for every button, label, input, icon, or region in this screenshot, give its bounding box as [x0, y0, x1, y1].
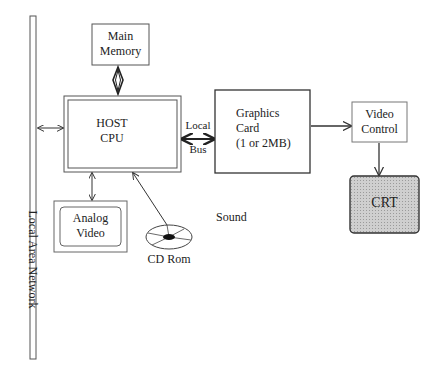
video-control-label: Video Control [352, 107, 407, 137]
analog-video-line1: Analog [60, 211, 121, 226]
cdrom-cpu-arrow [133, 173, 167, 225]
crt-label-text: CRT [371, 195, 397, 210]
crt-label: CRT [350, 195, 419, 210]
local-bus-label-top: Local [180, 118, 216, 133]
lan-label-text: Local Area Network [26, 211, 40, 309]
analog-video-line2: Video [60, 226, 121, 241]
video-control-line1: Video [352, 107, 407, 122]
graphics-card-label: Graphics Card (1 or 2MB) [236, 106, 306, 151]
local-bus-line1: Local [185, 119, 210, 131]
local-bus-label-bottom: Bus [180, 142, 216, 157]
graphics-card-line2: Card [236, 121, 306, 136]
cd-rom-label: CD Rom [139, 252, 199, 267]
main-memory-line1: Main [92, 29, 149, 44]
memory-cpu-connector [113, 67, 123, 94]
host-cpu-line1: HOST [82, 116, 142, 131]
sound-label: Sound [216, 210, 266, 225]
main-memory-line2: Memory [92, 44, 149, 59]
cd-rom-label-text: CD Rom [147, 252, 190, 266]
host-cpu-label: HOST CPU [82, 116, 142, 146]
graphics-card-line3: (1 or 2MB) [236, 136, 306, 151]
main-memory-label: Main Memory [92, 29, 149, 59]
diagram-canvas [0, 0, 436, 376]
analog-video-label: Analog Video [60, 211, 121, 241]
lan-label: Local Area Network [25, 190, 40, 330]
sound-label-text: Sound [216, 210, 247, 224]
graphics-card-line1: Graphics [236, 106, 306, 121]
video-control-line2: Control [352, 122, 407, 137]
host-cpu-line2: CPU [82, 131, 142, 146]
local-bus-line2: Bus [189, 143, 206, 155]
cd-rom-icon [146, 225, 192, 249]
